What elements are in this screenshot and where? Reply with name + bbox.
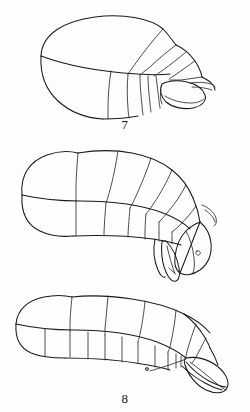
figure-9-drawing — [0, 280, 250, 412]
figure-7-label: 7 — [0, 117, 250, 133]
figure-8-drawing — [0, 133, 250, 283]
figure-8-terminal-appendages — [154, 205, 216, 281]
figure-9-segment-lines — [45, 296, 176, 370]
figure-plate: 7 — [0, 0, 250, 412]
figure-9-terminal-appendages — [146, 314, 228, 393]
figure-9: 9 — [0, 280, 250, 412]
figure-7: 7 — [0, 0, 250, 140]
figure-8-segment-lines — [76, 151, 196, 244]
figure-7-segment-lines — [108, 29, 215, 119]
figure-8: 8 — [0, 133, 250, 283]
